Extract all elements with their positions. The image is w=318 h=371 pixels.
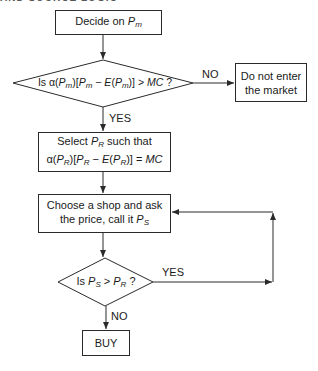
start-box-sub: m [135, 20, 142, 29]
start-box-text: Decide on [75, 15, 128, 27]
decision2-text: Is PS > PR ? [65, 275, 147, 289]
shop-box: Choose a shop and ask the price, call it… [38, 194, 171, 233]
exit-box-line2: the market [245, 83, 297, 97]
decision2-no-label: NO [111, 310, 128, 322]
select-box-suffix: such that [104, 135, 152, 147]
shop-box-var: P [136, 213, 143, 225]
shop-box-prefix: the price, call it [60, 213, 136, 225]
decision1-yes-label: YES [109, 112, 131, 124]
exit-box: Do not enter the market [235, 63, 307, 102]
flowchart-connectors [0, 0, 318, 371]
buy-box: BUY [82, 330, 130, 356]
decision1-no-label: NO [202, 68, 219, 80]
start-box: Decide on Pm [55, 10, 162, 35]
decision1-text: Is α(Pm)[Pm − E(Pm)] > MC ? [30, 76, 180, 90]
shop-box-line1: Choose a shop and ask [47, 198, 163, 212]
buy-box-text: BUY [95, 336, 118, 350]
select-box-equation: α(PR)[PR − E(PR)] = MC [46, 152, 162, 170]
select-box: Select PR such that α(PR)[PR − E(PR)] = … [38, 132, 171, 172]
decision2-yes-label: YES [162, 266, 184, 278]
select-box-prefix: Select [57, 135, 91, 147]
shop-box-sub: S [144, 218, 149, 227]
exit-box-line1: Do not enter [241, 69, 302, 83]
